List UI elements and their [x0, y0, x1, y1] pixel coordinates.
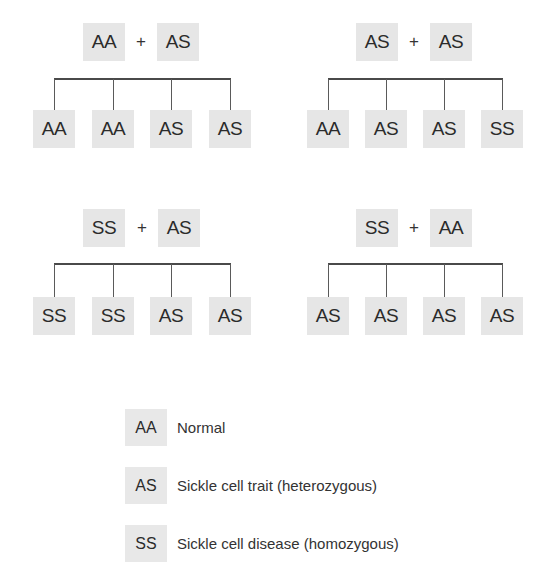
- offspring-genotype-box: SS: [481, 110, 523, 148]
- legend-genotype-box: SS: [125, 525, 167, 562]
- offspring-genotype-box: AS: [209, 297, 251, 335]
- offspring-genotype-box: AA: [33, 110, 75, 148]
- connector-horizontal-line: [328, 263, 503, 265]
- connector-horizontal-line: [54, 78, 231, 80]
- parent-genotype-box: AA: [83, 23, 125, 61]
- connector-vertical-line: [386, 79, 387, 111]
- connector-vertical-line: [54, 79, 55, 111]
- connector-horizontal-line: [328, 78, 503, 80]
- parent-genotype-box: AS: [157, 23, 199, 61]
- offspring-genotype-box: AS: [423, 110, 465, 148]
- connector-vertical-line: [230, 264, 231, 297]
- offspring-genotype-box: AA: [92, 110, 134, 148]
- parent-genotype-box: SS: [83, 209, 125, 247]
- plus-sign: +: [132, 209, 152, 247]
- parent-genotype-box: SS: [356, 209, 398, 247]
- offspring-genotype-box: AS: [209, 110, 251, 148]
- connector-vertical-line: [171, 264, 172, 297]
- offspring-genotype-box: SS: [33, 297, 75, 335]
- offspring-genotype-box: AS: [365, 297, 407, 335]
- offspring-genotype-box: AA: [307, 110, 349, 148]
- plus-sign: +: [404, 23, 424, 61]
- legend-genotype-box: AA: [125, 409, 167, 446]
- plus-sign: +: [131, 23, 151, 61]
- connector-vertical-line: [444, 264, 445, 297]
- legend-label: Sickle cell trait (heterozygous): [177, 467, 377, 504]
- plus-sign: +: [404, 209, 424, 247]
- offspring-genotype-box: AS: [307, 297, 349, 335]
- connector-vertical-line: [54, 264, 55, 297]
- offspring-genotype-box: AS: [150, 110, 192, 148]
- connector-vertical-line: [113, 79, 114, 111]
- connector-vertical-line: [502, 264, 503, 297]
- parent-genotype-box: AS: [356, 23, 398, 61]
- connector-vertical-line: [444, 79, 445, 111]
- connector-vertical-line: [230, 79, 231, 111]
- offspring-genotype-box: AS: [150, 297, 192, 335]
- offspring-genotype-box: AS: [423, 297, 465, 335]
- offspring-genotype-box: AS: [481, 297, 523, 335]
- connector-vertical-line: [113, 264, 114, 297]
- legend-genotype-box: AS: [125, 467, 167, 504]
- offspring-genotype-box: SS: [92, 297, 134, 335]
- connector-vertical-line: [502, 79, 503, 111]
- offspring-genotype-box: AS: [365, 110, 407, 148]
- parent-genotype-box: AA: [430, 209, 472, 247]
- connector-vertical-line: [386, 264, 387, 297]
- parent-genotype-box: AS: [430, 23, 472, 61]
- connector-vertical-line: [328, 79, 329, 111]
- connector-vertical-line: [328, 264, 329, 297]
- legend-label: Normal: [177, 409, 225, 446]
- parent-genotype-box: AS: [158, 209, 200, 247]
- legend-label: Sickle cell disease (homozygous): [177, 525, 399, 562]
- connector-vertical-line: [171, 79, 172, 111]
- connector-horizontal-line: [54, 263, 231, 265]
